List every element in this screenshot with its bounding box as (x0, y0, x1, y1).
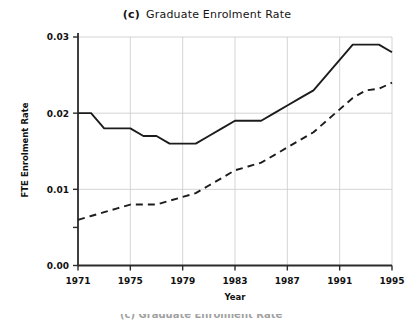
y-tick-label: 0.02 (47, 109, 69, 119)
gridlines-group (78, 37, 392, 266)
x-tick-labels-group: 1971197519791983198719911995 (65, 276, 404, 286)
clipped-caption-artifact: (c) Graduate Enrolment Rate (120, 314, 310, 320)
y-tick-label: 0.01 (47, 185, 69, 195)
x-tick-label: 1987 (275, 276, 300, 286)
x-tick-label: 1971 (65, 276, 90, 286)
y-tick-label: 0.00 (47, 261, 69, 271)
y-tick-labels-group: 0.000.010.020.03 (47, 32, 69, 271)
x-tick-label: 1991 (327, 276, 352, 286)
x-tick-label: 1975 (118, 276, 143, 286)
chart-figure: (c)Graduate Enrolment Rate 0.000.010.020… (0, 0, 414, 322)
plot-area: 0.000.010.020.03 19711975197919831987199… (0, 0, 414, 322)
x-tick-label: 1995 (379, 276, 404, 286)
x-axis-title: Year (223, 292, 246, 302)
tick-marks-group (73, 37, 392, 271)
y-axis-title: FTE Enrolment Rate (20, 102, 30, 197)
x-tick-label: 1979 (170, 276, 195, 286)
x-tick-label: 1983 (222, 276, 247, 286)
clipped-caption-text: (c) Graduate Enrolment Rate (120, 314, 310, 320)
y-tick-label: 0.03 (47, 32, 69, 42)
